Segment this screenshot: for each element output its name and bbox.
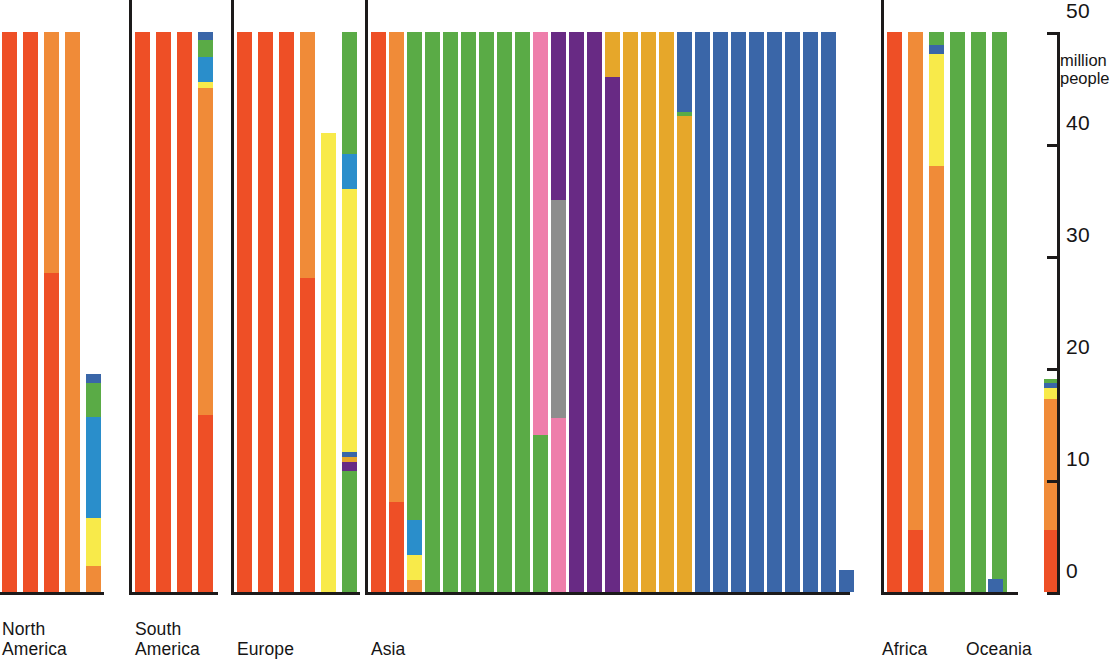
stacked-bar[interactable]	[533, 32, 548, 592]
group-baseline	[0, 592, 104, 595]
stacked-bar[interactable]	[443, 32, 458, 592]
bar-segment	[389, 32, 404, 502]
stacked-bar[interactable]	[321, 133, 336, 592]
stacked-bar[interactable]	[135, 32, 150, 592]
bar-segment	[342, 154, 357, 189]
stacked-bar[interactable]	[988, 579, 1003, 592]
stacked-bar[interactable]	[785, 32, 800, 592]
stacked-bar[interactable]	[731, 32, 746, 592]
stacked-bar[interactable]	[569, 32, 584, 592]
bar-segment	[86, 374, 101, 383]
bar-segment	[198, 40, 213, 57]
stacked-bar[interactable]	[695, 32, 710, 592]
stacked-bar[interactable]	[929, 32, 944, 592]
bar-segment	[321, 133, 336, 592]
group-baseline	[881, 592, 1018, 595]
stacked-bar[interactable]	[587, 32, 602, 592]
group-baseline	[365, 592, 850, 595]
stacked-bar[interactable]	[659, 32, 674, 592]
group-baseline	[129, 592, 218, 595]
axis-unit-label: million people	[1060, 52, 1110, 87]
stacked-bar[interactable]	[342, 32, 357, 592]
bar-segment	[908, 32, 923, 530]
bar-segment	[407, 32, 422, 520]
bar-segment	[177, 32, 192, 592]
stacked-bar[interactable]	[156, 32, 171, 592]
axis-tick	[1047, 592, 1060, 595]
bar-segment	[515, 32, 530, 592]
axis-tick	[1047, 368, 1060, 371]
bar-segment	[929, 32, 944, 45]
stacked-bar[interactable]	[65, 32, 80, 592]
stacked-bar[interactable]	[749, 32, 764, 592]
axis-tick	[1047, 480, 1060, 483]
stacked-bar[interactable]	[461, 32, 476, 592]
stacked-bar[interactable]	[515, 32, 530, 592]
bar-segment	[198, 415, 213, 592]
axis-tick-label: 30	[1066, 223, 1090, 247]
group-label: Europe	[237, 639, 294, 659]
bar-segment	[371, 32, 386, 592]
bar-segment	[2, 32, 17, 592]
stacked-bar[interactable]	[497, 32, 512, 592]
bar-segment	[198, 88, 213, 415]
group-axis-line	[365, 0, 368, 594]
stacked-bar[interactable]	[839, 570, 854, 592]
bar-segment	[839, 570, 854, 592]
axis-tick-label: 0	[1066, 559, 1078, 583]
bar-segment	[279, 32, 294, 592]
stacked-bar[interactable]	[767, 32, 782, 592]
bar-segment	[533, 435, 548, 592]
stacked-bar[interactable]	[389, 32, 404, 592]
stacked-bar[interactable]	[479, 32, 494, 592]
bar-segment	[86, 383, 101, 418]
stacked-bar[interactable]	[300, 32, 315, 592]
stacked-bar[interactable]	[641, 32, 656, 592]
chart-canvas: North AmericaSouth AmericaEuropeAsiaAfri…	[0, 0, 1112, 665]
stacked-bar[interactable]	[258, 32, 273, 592]
stacked-bar[interactable]	[2, 32, 17, 592]
bar-segment	[65, 32, 80, 592]
stacked-bar[interactable]	[279, 32, 294, 592]
stacked-bar[interactable]	[950, 32, 965, 592]
bar-segment	[443, 32, 458, 592]
bar-segment	[821, 32, 836, 592]
stacked-bar[interactable]	[371, 32, 386, 592]
stacked-bar[interactable]	[887, 32, 902, 592]
stacked-bar[interactable]	[992, 32, 1007, 592]
stacked-bar[interactable]	[177, 32, 192, 592]
bar-segment	[425, 32, 440, 592]
group-label: Africa	[882, 639, 927, 659]
stacked-bar[interactable]	[407, 32, 422, 592]
bar-segment	[677, 32, 692, 112]
bar-segment	[86, 518, 101, 566]
bar-segment	[44, 32, 59, 273]
bar-segment	[929, 166, 944, 592]
stacked-bar[interactable]	[908, 32, 923, 592]
stacked-bar[interactable]	[23, 32, 38, 592]
stacked-bar[interactable]	[198, 32, 213, 592]
bar-segment	[551, 32, 566, 200]
stacked-bar[interactable]	[605, 32, 620, 592]
bar-segment	[551, 418, 566, 592]
bar-segment	[569, 32, 584, 592]
bar-segment	[342, 32, 357, 154]
bar-segment	[407, 555, 422, 580]
stacked-bar[interactable]	[551, 32, 566, 592]
bar-segment	[198, 57, 213, 83]
stacked-bar[interactable]	[86, 374, 101, 592]
stacked-bar[interactable]	[821, 32, 836, 592]
stacked-bar[interactable]	[803, 32, 818, 592]
bar-segment	[135, 32, 150, 592]
bar-segment	[461, 32, 476, 592]
stacked-bar[interactable]	[425, 32, 440, 592]
stacked-bar[interactable]	[44, 32, 59, 592]
stacked-bar[interactable]	[971, 32, 986, 592]
bar-segment	[86, 566, 101, 592]
bar-segment	[641, 32, 656, 592]
stacked-bar[interactable]	[677, 32, 692, 592]
stacked-bar[interactable]	[713, 32, 728, 592]
group-label: North America	[2, 619, 67, 659]
stacked-bar[interactable]	[623, 32, 638, 592]
stacked-bar[interactable]	[237, 32, 252, 592]
